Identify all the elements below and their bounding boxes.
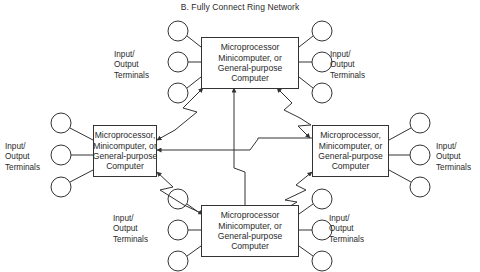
io-label-line: Output bbox=[114, 60, 149, 70]
io-label-line: Terminals bbox=[114, 71, 149, 81]
io-label-line: Terminals bbox=[113, 235, 148, 245]
node-text: Computer bbox=[332, 161, 370, 171]
node-text: General-purpose bbox=[318, 151, 383, 161]
node-text: Computer bbox=[231, 241, 269, 251]
io-label-left: Input/ Output Terminals bbox=[5, 142, 40, 173]
io-label-line: Input/ bbox=[5, 142, 40, 152]
node-text: Minicomputer, or bbox=[319, 141, 383, 151]
link-top-left bbox=[157, 88, 203, 140]
link-top-bottom bbox=[234, 88, 245, 214]
io-label-line: Input/ bbox=[329, 214, 364, 224]
io-label-line: Input/ bbox=[114, 50, 149, 60]
node-text: General-purpose bbox=[218, 63, 283, 73]
link-left-right bbox=[157, 138, 316, 150]
terminals-bottom-left bbox=[168, 189, 201, 271]
io-label-line: Output bbox=[113, 224, 148, 234]
terminals-bottom-right bbox=[299, 189, 332, 271]
computer-node-top: Microprocessor Minicomputer, or General-… bbox=[201, 37, 299, 89]
terminals-top-right bbox=[299, 21, 332, 103]
terminals-top-left bbox=[168, 21, 201, 103]
io-label-bottom-left: Input/ Output Terminals bbox=[113, 214, 148, 245]
link-left-bottom bbox=[157, 172, 203, 214]
link-top-right bbox=[277, 88, 311, 138]
io-label-line: Output bbox=[329, 224, 364, 234]
node-text: Microprocessor bbox=[221, 210, 280, 220]
terminals-right bbox=[389, 113, 430, 197]
computer-node-bottom: Microprocessor Minicomputer, or General-… bbox=[201, 205, 299, 257]
io-label-line: Input/ bbox=[330, 50, 365, 60]
computer-node-right: Microprocessor, Minicomputer, or General… bbox=[312, 125, 389, 177]
node-text: Minicomputer, or bbox=[93, 141, 157, 151]
node-text: Computer bbox=[231, 73, 269, 83]
node-text: Minicomputer, or bbox=[218, 221, 282, 231]
terminals-left bbox=[51, 113, 93, 197]
computer-node-left: Microprocessor, Minicomputer, or General… bbox=[93, 125, 157, 177]
io-label-line: Input/ bbox=[113, 214, 148, 224]
node-text: Microprocessor bbox=[221, 42, 280, 52]
io-label-line: Output bbox=[5, 152, 40, 162]
io-label-line: Terminals bbox=[329, 235, 364, 245]
io-label-right: Input/ Output Terminals bbox=[436, 142, 471, 173]
node-text: Microprocessor, bbox=[320, 130, 381, 140]
io-label-line: Terminals bbox=[5, 163, 40, 173]
io-label-line: Output bbox=[330, 60, 365, 70]
io-label-line: Terminals bbox=[330, 71, 365, 81]
io-label-top-right: Input/ Output Terminals bbox=[330, 50, 365, 81]
io-label-top-left: Input/ Output Terminals bbox=[114, 50, 149, 81]
node-text: Microprocessor, bbox=[95, 130, 156, 140]
io-label-bottom-right: Input/ Output Terminals bbox=[329, 214, 364, 245]
io-label-line: Input/ bbox=[436, 142, 471, 152]
node-text: Computer bbox=[106, 161, 144, 171]
node-text: Minicomputer, or bbox=[218, 53, 282, 63]
io-label-line: Output bbox=[436, 152, 471, 162]
node-text: General-purpose bbox=[218, 231, 283, 241]
node-text: General-purpose bbox=[93, 151, 158, 161]
io-label-line: Terminals bbox=[436, 163, 471, 173]
